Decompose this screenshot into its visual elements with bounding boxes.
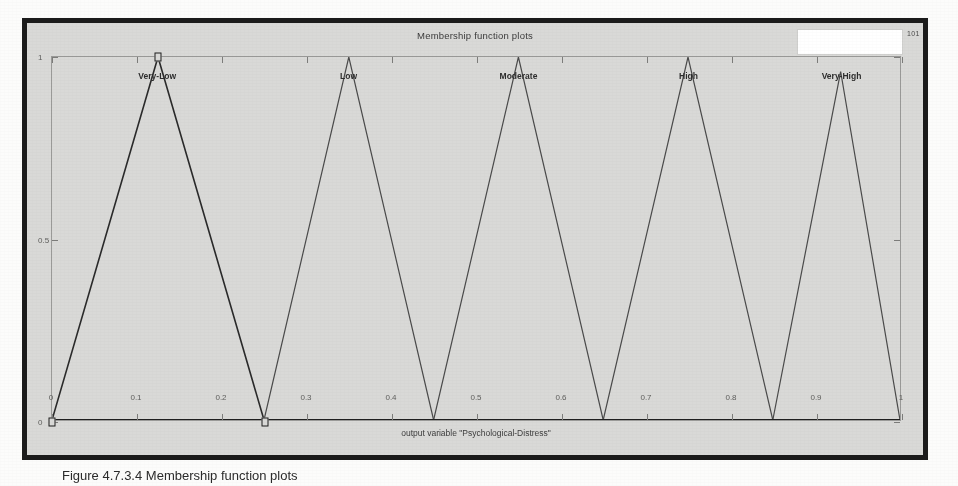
plot-surface[interactable] (52, 57, 900, 420)
mf-label: High (679, 71, 698, 81)
x-axis-tick (222, 57, 223, 63)
figure-caption: Figure 4.7.3.4 Membership function plots (62, 468, 942, 486)
x-axis-tick (392, 414, 393, 420)
mf-drag-handle[interactable] (261, 418, 268, 427)
y-tick-label: 0 (38, 418, 42, 427)
membership-curves (52, 57, 900, 420)
y-axis-tick (894, 422, 900, 423)
y-axis-tick (894, 57, 900, 58)
x-axis-tick (307, 57, 308, 63)
x-tick-label: 0.4 (385, 393, 396, 402)
x-axis-tick (732, 414, 733, 420)
x-axis-tick (392, 57, 393, 63)
mf-curve[interactable] (603, 57, 773, 420)
x-tick-label: 0 (49, 393, 53, 402)
x-axis-tick (562, 57, 563, 63)
x-tick-label: 0.9 (810, 393, 821, 402)
x-tick-label: 0.5 (470, 393, 481, 402)
mf-name-field[interactable] (797, 29, 903, 55)
mf-curve[interactable] (434, 57, 604, 420)
figure-panel: Membership function plots 101 00.51 Very… (27, 23, 923, 455)
x-axis-tick (307, 414, 308, 420)
mf-drag-handle[interactable] (155, 53, 162, 62)
x-axis-tick (902, 57, 903, 63)
y-tick-label: 0.5 (38, 235, 49, 244)
corner-tag: 101 (907, 30, 920, 37)
x-axis-label: output variable "Psychological-Distress" (51, 428, 901, 438)
plot-axes: 00.51 (51, 56, 901, 421)
y-axis-tick (52, 57, 58, 58)
mf-label: Low (340, 71, 357, 81)
x-axis-tick (902, 414, 903, 420)
mf-curve[interactable] (773, 72, 900, 420)
mf-curve[interactable] (52, 57, 264, 420)
x-tick-label: 0.8 (725, 393, 736, 402)
figure-window: Membership function plots 101 00.51 Very… (22, 18, 928, 460)
x-tick-label: 0.1 (130, 393, 141, 402)
y-axis-tick (894, 240, 900, 241)
x-axis-tick (137, 414, 138, 420)
x-axis-tick (137, 57, 138, 63)
page-title: Membership function plots (417, 26, 533, 46)
x-axis-tick (817, 57, 818, 63)
mf-drag-handle[interactable] (49, 418, 56, 427)
x-axis-tick (732, 57, 733, 63)
x-axis-tick (562, 414, 563, 420)
x-tick-label: 0.6 (555, 393, 566, 402)
x-axis-tick (817, 414, 818, 420)
x-tick-label: 0.7 (640, 393, 651, 402)
x-axis-tick (222, 414, 223, 420)
y-tick-label: 1 (38, 53, 42, 62)
mf-curve-group (52, 57, 900, 420)
x-tick-label: 1 (899, 393, 903, 402)
mf-label: Very-Low (138, 71, 176, 81)
mf-label: Moderate (500, 71, 538, 81)
x-tick-label: 0.2 (215, 393, 226, 402)
scanned-page: Membership function plots 101 00.51 Very… (0, 0, 958, 486)
x-axis-tick (647, 414, 648, 420)
mf-curve[interactable] (264, 57, 434, 420)
x-axis-tick (647, 57, 648, 63)
x-axis-tick (477, 414, 478, 420)
figure-title-bar: Membership function plots (27, 25, 923, 45)
x-axis-tick (477, 57, 478, 63)
mf-label: Very-High (822, 71, 862, 81)
x-tick-label: 0.3 (300, 393, 311, 402)
y-axis-tick (52, 240, 58, 241)
